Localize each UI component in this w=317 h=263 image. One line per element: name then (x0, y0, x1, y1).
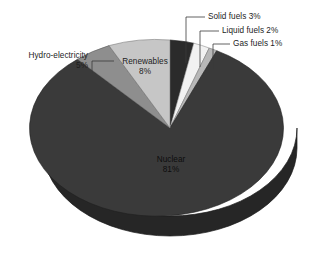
slice-label-nuclear-value: 81% (146, 165, 196, 175)
slice-label-gas-fuels: Gas fuels 1% (233, 39, 282, 49)
slice-label-renewables-name: Renewables (112, 57, 178, 67)
slice-label-hydro-electricity-name: Hydro-electricity (0, 51, 88, 61)
slice-label-nuclear-name: Nuclear (146, 155, 196, 165)
pie-chart-figure: Solid fuels 3% Liquid fuels 2% Gas fuels… (0, 0, 317, 263)
slice-label-renewables-value: 8% (112, 67, 178, 77)
slice-label-renewables: Renewables 8% (112, 57, 178, 76)
slice-label-hydro-electricity-value: 5% (0, 61, 88, 71)
slice-label-nuclear: Nuclear 81% (146, 155, 196, 174)
slice-label-liquid-fuels: Liquid fuels 2% (222, 26, 278, 36)
slice-label-solid-fuels: Solid fuels 3% (208, 12, 261, 22)
slice-label-hydro-electricity: Hydro-electricity 5% (0, 51, 88, 70)
